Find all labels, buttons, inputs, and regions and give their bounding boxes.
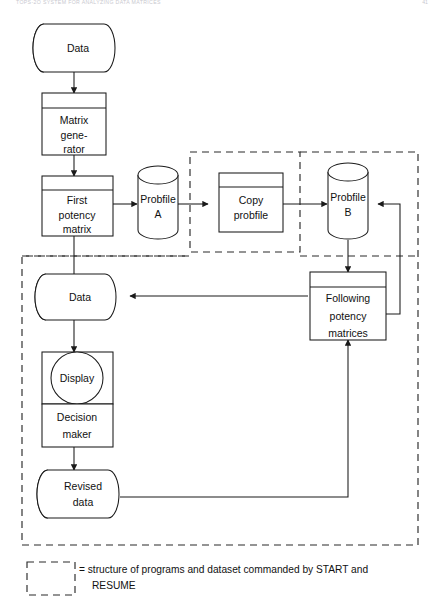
node-label-line1: Probfile [140, 193, 176, 205]
disk-top-ellipse [328, 163, 368, 181]
node-label-line3: matrix [63, 223, 92, 235]
node-label-line2: B [344, 206, 351, 218]
node-data-top: Data [33, 24, 115, 72]
node-label-line2: potency [59, 209, 97, 221]
node-label-line2: A [154, 208, 161, 220]
disk-body [138, 175, 178, 239]
node-decision-maker: Decision maker [42, 404, 113, 447]
node-label: Data [69, 291, 91, 303]
node-label: Data [67, 42, 89, 54]
disk-top-ellipse [138, 166, 178, 184]
node-label-line2: gene- [61, 129, 88, 141]
drum-left-cap [35, 274, 46, 320]
node-label-line1: Following [326, 292, 371, 304]
node-label-line2: data [73, 496, 94, 508]
node-label-line2: potency [330, 310, 368, 322]
node-label-line1: Revised [64, 480, 102, 492]
node-label-line2: maker [62, 428, 92, 440]
legend-line-1: = structure of programs and dataset comm… [79, 564, 368, 575]
node-data-mid: Data [35, 274, 116, 320]
node-label-line3: matrices [328, 327, 368, 339]
node-label-line1: First [67, 194, 87, 206]
node-label-line1: Matrix [60, 114, 89, 126]
legend-line-2: RESUME [92, 580, 136, 591]
node-label-line3: rator [63, 143, 85, 155]
drum-left-cap [33, 24, 44, 72]
node-probfile-a: Probfile A [138, 166, 178, 239]
edge-revised-to-following [120, 340, 348, 497]
node-label: Display [60, 372, 95, 384]
drum-body [37, 470, 119, 518]
node-display: Display [42, 352, 113, 404]
drum-left-cap [37, 470, 48, 518]
node-label-line2: probfile [234, 209, 269, 221]
node-probfile-b: Probfile B [328, 163, 368, 239]
node-label-line1: Decision [57, 411, 97, 423]
node-matrix-generator: Matrix gene- rator [42, 93, 106, 155]
node-revised-data: Revised data [37, 470, 119, 518]
node-first-potency-matrix: First potency matrix [42, 176, 113, 236]
legend-dashed-swatch [27, 562, 75, 595]
figure-page: TOPS-2O SYSTEM FOR ANALYZING DATA MATRIC… [0, 0, 438, 613]
node-following-potency-matrices: Following potency matrices [310, 272, 386, 340]
node-label-line1: Copy [239, 194, 264, 206]
node-label-line1: Probfile [330, 191, 366, 203]
flowchart-canvas: Data Matrix gene- rator First potency ma… [0, 0, 438, 613]
node-copy-probfile: Copy probfile [219, 173, 283, 232]
